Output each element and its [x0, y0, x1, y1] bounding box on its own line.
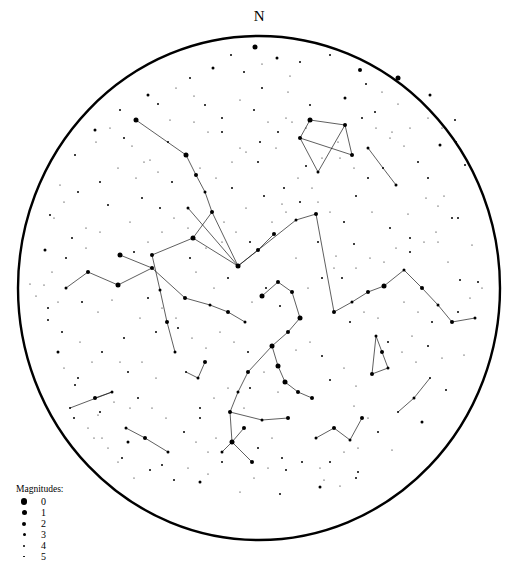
- star-point: [167, 141, 169, 143]
- star-point: [308, 118, 313, 123]
- star-point: [177, 327, 179, 329]
- constellation-line: [316, 428, 334, 438]
- star-point: [409, 237, 411, 239]
- star-point: [227, 387, 228, 388]
- star-point: [329, 379, 331, 381]
- star-point: [161, 307, 162, 308]
- star-point: [169, 119, 170, 120]
- star-point: [199, 481, 202, 484]
- star-point: [193, 121, 194, 122]
- star-point: [391, 449, 392, 450]
- star-point: [125, 427, 128, 430]
- star-point: [194, 173, 198, 177]
- star-point: [85, 247, 86, 248]
- star-point: [275, 147, 276, 148]
- star-point: [63, 367, 64, 368]
- star-point: [289, 75, 290, 76]
- star-point: [79, 341, 80, 342]
- star-point: [191, 337, 192, 338]
- star-point: [159, 289, 162, 292]
- star-point: [409, 127, 410, 128]
- legend-magnitude-dot: [21, 498, 27, 504]
- legend-dot-cell: [16, 545, 32, 547]
- sky-map: [0, 0, 519, 566]
- star-point: [437, 205, 438, 206]
- star-point: [276, 280, 280, 284]
- star-point: [141, 361, 142, 362]
- star-point: [151, 407, 152, 408]
- star-point: [253, 45, 258, 50]
- star-point: [309, 341, 310, 342]
- star-point: [242, 426, 246, 430]
- legend-magnitude-label: 3: [41, 529, 46, 540]
- star-point: [279, 305, 281, 307]
- star-point: [341, 277, 343, 279]
- star-point: [374, 111, 376, 113]
- star-point: [63, 201, 64, 202]
- star-point: [445, 389, 447, 391]
- star-point: [189, 77, 191, 79]
- star-point: [133, 477, 134, 478]
- star-point: [81, 301, 83, 303]
- star-point: [87, 427, 88, 428]
- star-point: [209, 304, 212, 307]
- star-point: [263, 371, 264, 372]
- star-point: [420, 286, 424, 290]
- star-point: [207, 473, 208, 474]
- star-point: [431, 321, 433, 323]
- star-point: [133, 251, 135, 253]
- star-point: [437, 241, 438, 242]
- star-point: [477, 281, 479, 283]
- star-point: [429, 94, 432, 97]
- legend-rows: 012345: [16, 496, 64, 562]
- star-point: [137, 397, 139, 399]
- star-point: [353, 405, 354, 406]
- star-point: [47, 319, 49, 321]
- constellation-line: [350, 418, 362, 440]
- constellation-line: [152, 255, 160, 290]
- star-point: [283, 187, 285, 189]
- star-point: [189, 257, 191, 259]
- star-point: [195, 271, 196, 272]
- star-point: [93, 437, 94, 438]
- star-point: [367, 417, 368, 418]
- legend-dot-cell: [16, 533, 32, 536]
- star-point: [357, 447, 358, 448]
- constellation-line: [232, 442, 252, 462]
- star-point: [147, 94, 150, 97]
- star-point: [281, 457, 283, 459]
- star-point: [97, 311, 98, 312]
- star-point: [333, 267, 334, 268]
- star-point: [243, 71, 245, 73]
- star-point: [332, 310, 336, 314]
- star-point: [295, 349, 296, 350]
- constellation-line: [383, 168, 396, 185]
- star-point: [51, 271, 52, 272]
- star-point: [109, 127, 110, 128]
- star-point: [203, 360, 207, 364]
- star-point: [183, 296, 187, 300]
- constellation-line: [316, 214, 334, 312]
- star-point: [117, 167, 118, 168]
- star-point: [113, 401, 114, 402]
- star-point: [387, 367, 390, 370]
- star-point: [355, 477, 357, 479]
- star-point: [237, 391, 240, 394]
- star-point: [127, 441, 130, 444]
- star-point: [261, 63, 262, 64]
- constellation-line: [310, 120, 345, 125]
- star-point: [221, 131, 223, 133]
- star-point: [421, 421, 424, 424]
- star-point: [204, 191, 207, 194]
- star-point: [290, 290, 294, 294]
- star-point: [363, 311, 364, 312]
- star-point: [161, 464, 163, 466]
- star-point: [253, 109, 255, 111]
- star-point: [231, 161, 232, 162]
- constellation-line: [230, 412, 262, 420]
- star-point: [230, 440, 235, 445]
- star-point: [249, 387, 251, 389]
- star-point: [123, 337, 125, 339]
- legend-magnitude-label: 1: [41, 507, 46, 518]
- star-point: [99, 231, 100, 232]
